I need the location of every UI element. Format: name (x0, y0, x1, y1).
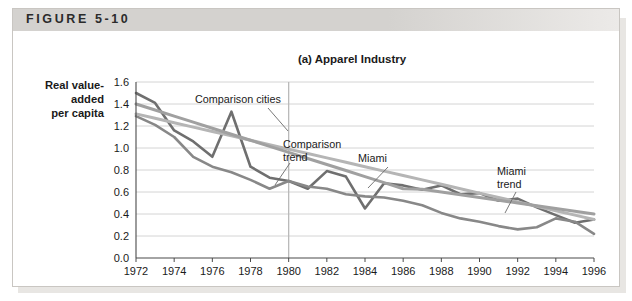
y-tick-label-1.4: 1.4 (114, 98, 129, 110)
y-tick-label-0.2: 0.2 (114, 230, 129, 242)
annotation-comparison-cities-line-1: Comparison cities (195, 93, 281, 105)
y-tick-label-0.8: 0.8 (114, 164, 129, 176)
x-tick-label-1984: 1984 (353, 265, 377, 277)
y-tick-label-1.2: 1.2 (114, 120, 129, 132)
y-tick-label-0.4: 0.4 (114, 208, 129, 220)
x-tick-label-1974: 1974 (162, 265, 186, 277)
y-tick-label-1.0: 1.0 (114, 142, 129, 154)
x-tick-label-1976: 1976 (200, 265, 224, 277)
annotation-comparison-trend-line-1: Comparison (283, 138, 341, 150)
x-tick-labels-group: 1972197419761978198019821984198619881990… (124, 265, 606, 277)
y-tick-labels-group: 0.00.20.40.60.81.01.21.41.6 (114, 76, 129, 264)
x-tick-label-1978: 1978 (238, 265, 262, 277)
x-tick-label-1986: 1986 (391, 265, 415, 277)
x-tick-label-1992: 1992 (505, 265, 529, 277)
x-tick-label-1996: 1996 (582, 265, 606, 277)
x-tick-label-1990: 1990 (467, 265, 491, 277)
annotation-comparison-trend-line-2: trend (283, 151, 308, 163)
x-tick-label-1994: 1994 (544, 265, 568, 277)
y-tick-label-0.6: 0.6 (114, 186, 129, 198)
x-tick-label-1982: 1982 (315, 265, 339, 277)
x-tick-label-1988: 1988 (429, 265, 453, 277)
chart-plot-area: 0.00.20.40.60.81.01.21.41.6 197219741976… (0, 0, 632, 301)
y-tick-label-1.6: 1.6 (114, 76, 129, 88)
y-tick-label-0.0: 0.0 (114, 252, 129, 264)
figure-container: FIGURE 5-10 (a) Apparel Industry Real va… (0, 0, 632, 301)
x-tick-label-1980: 1980 (276, 265, 300, 277)
annotation-miami-trend-line-1: Miami (497, 165, 526, 177)
annotation-leader-comparison-cities (268, 108, 288, 131)
annotation-miami-line-1: Miami (358, 152, 387, 164)
x-tick-label-1972: 1972 (124, 265, 148, 277)
annotation-miami-trend-line-2: trend (497, 178, 522, 190)
